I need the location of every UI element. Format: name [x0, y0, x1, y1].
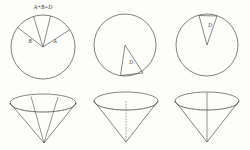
radius-1b — [34, 17, 44, 48]
sector-label-b: B — [28, 38, 32, 44]
sector-label-d-3: D — [207, 22, 212, 28]
panel-2-cone-group — [94, 92, 158, 142]
radius-2b — [125, 45, 143, 73]
panel-1-circle-group: A+B=D B A — [11, 4, 75, 79]
wedge-chord-3 — [199, 16, 217, 17]
sector-label-d-2: D — [128, 59, 133, 65]
cone-left-edge-3 — [175, 101, 207, 142]
cone-hidden-arc-1 — [10, 103, 76, 112]
panel-3-cone-group — [175, 92, 239, 142]
cone-right-edge-3 — [207, 101, 239, 142]
radius-2a — [121, 45, 126, 76]
radius-1c — [43, 16, 51, 47]
cone-internal-line-1b — [44, 97, 58, 143]
radius-3b — [207, 16, 217, 45]
cone-right-edge-1 — [44, 103, 76, 143]
cone-right-edge-2 — [126, 101, 158, 142]
sector-label-a: A — [52, 38, 57, 44]
figure-canvas: A+B=D B A D D — [0, 0, 250, 150]
equation-label: A+B=D — [33, 4, 52, 10]
cone-internal-line-1a — [31, 97, 44, 144]
geometry-figure: A+B=D B A D D — [0, 0, 250, 150]
panel-1-cone-group — [10, 94, 76, 143]
radius-3a — [199, 16, 207, 46]
cone-left-edge-1 — [10, 103, 44, 143]
panel-3-circle-group: D — [176, 14, 238, 76]
panel-2-circle-group: D — [94, 14, 156, 76]
cone-left-edge-2 — [94, 101, 126, 142]
